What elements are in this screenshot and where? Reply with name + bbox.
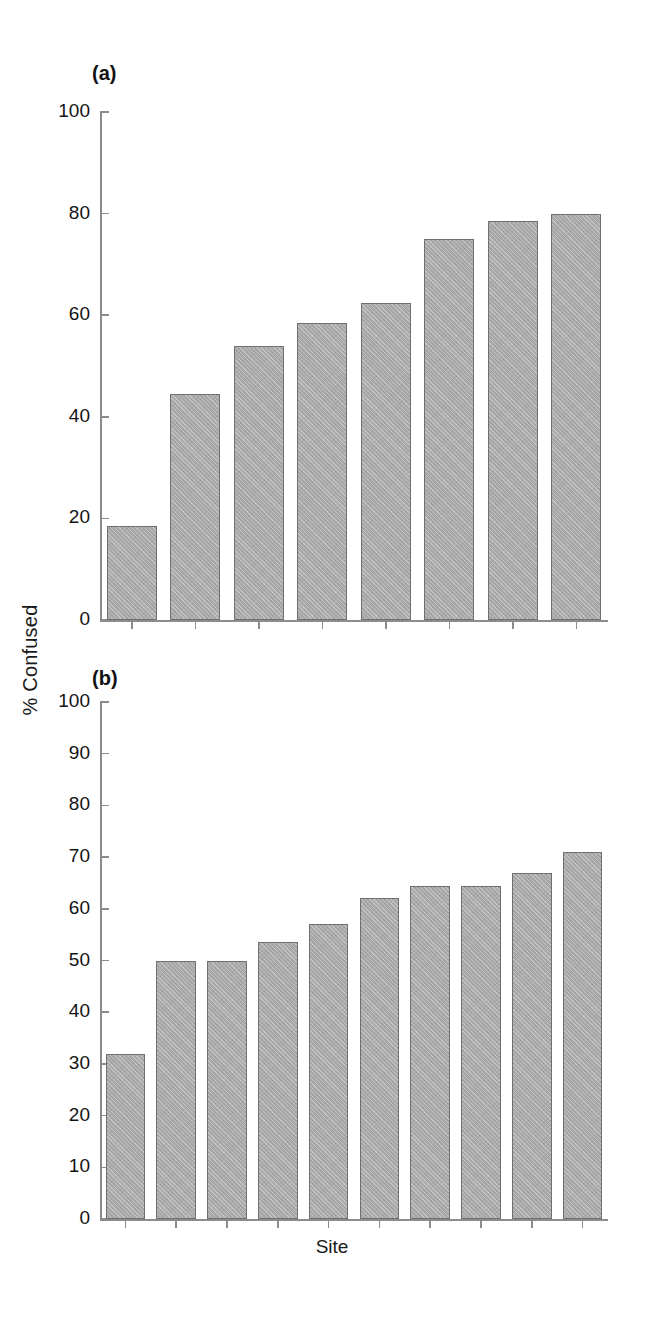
y-tick-label-b-40: 40	[30, 1000, 90, 1022]
y-tick-label-a-20: 20	[30, 506, 90, 528]
y-tick-label-b-80: 80	[30, 793, 90, 815]
y-tick-b-40	[100, 1011, 109, 1013]
x-tick-a-8	[576, 620, 578, 629]
x-tick-b-2	[175, 1219, 177, 1228]
x-tick-a-3	[258, 620, 260, 629]
x-tick-a-6	[449, 620, 451, 629]
y-tick-label-b-90: 90	[30, 742, 90, 764]
bar-a-5	[361, 303, 411, 621]
y-tick-label-a-80: 80	[30, 202, 90, 224]
panel-b: (b) 0102030405060708090100 Site	[0, 664, 664, 1328]
x-tick-b-4	[277, 1219, 279, 1228]
plot-area-b: 0102030405060708090100	[100, 702, 608, 1219]
panel-a-tag: (a)	[92, 62, 116, 85]
x-tick-b-10	[582, 1219, 584, 1228]
y-tick-label-a-0: 0	[30, 608, 90, 630]
bar-a-1	[107, 526, 157, 620]
bar-a-8	[551, 214, 601, 620]
y-tick-label-b-20: 20	[30, 1104, 90, 1126]
x-tick-a-7	[512, 620, 514, 629]
y-tick-b-90	[100, 753, 109, 755]
bar-b-9	[512, 873, 552, 1219]
y-tick-label-a-40: 40	[30, 405, 90, 427]
bar-b-10	[563, 852, 603, 1219]
x-axis-line-a	[100, 620, 608, 622]
bar-b-8	[461, 886, 501, 1219]
bar-a-3	[234, 346, 284, 620]
y-tick-b-50	[100, 960, 109, 962]
y-tick-label-a-100: 100	[30, 100, 90, 122]
y-tick-a-20	[100, 518, 109, 520]
y-tick-label-b-70: 70	[30, 845, 90, 867]
y-tick-label-b-0: 0	[30, 1207, 90, 1229]
panel-a: (a) 020406080100	[0, 0, 664, 664]
y-tick-label-b-10: 10	[30, 1155, 90, 1177]
y-tick-b-80	[100, 805, 109, 807]
y-tick-label-b-30: 30	[30, 1052, 90, 1074]
y-tick-label-a-60: 60	[30, 303, 90, 325]
bar-b-3	[207, 961, 247, 1220]
x-tick-a-5	[385, 620, 387, 629]
panel-b-tag: (b)	[92, 667, 118, 690]
y-tick-b-100	[100, 701, 109, 703]
bar-b-4	[258, 942, 298, 1219]
bar-a-6	[424, 239, 474, 620]
x-tick-b-9	[531, 1219, 533, 1228]
x-tick-b-5	[328, 1219, 330, 1228]
x-tick-b-8	[480, 1219, 482, 1228]
bar-b-5	[309, 924, 349, 1219]
bar-b-2	[156, 961, 196, 1220]
x-tick-a-4	[322, 620, 324, 629]
y-tick-label-b-100: 100	[30, 690, 90, 712]
x-axis-label: Site	[0, 1236, 664, 1258]
plot-area-a: 020406080100	[100, 112, 608, 620]
y-tick-a-60	[100, 314, 109, 316]
y-tick-b-60	[100, 908, 109, 910]
bar-a-4	[297, 323, 347, 620]
y-axis-line-a	[100, 112, 102, 620]
bar-b-7	[410, 886, 450, 1219]
x-tick-b-7	[429, 1219, 431, 1228]
y-tick-label-b-50: 50	[30, 949, 90, 971]
y-tick-a-40	[100, 416, 109, 418]
y-tick-a-100	[100, 111, 109, 113]
y-tick-label-b-60: 60	[30, 897, 90, 919]
bar-b-6	[360, 898, 400, 1219]
y-tick-b-70	[100, 856, 109, 858]
bar-a-7	[488, 221, 538, 620]
bar-b-1	[106, 1054, 146, 1219]
figure-bar-charts: % Confused (a) 020406080100 (b) 01020304…	[0, 0, 664, 1328]
bar-a-2	[170, 394, 220, 620]
x-tick-b-6	[379, 1219, 381, 1228]
y-tick-a-80	[100, 213, 109, 215]
x-tick-b-1	[125, 1219, 127, 1228]
x-tick-a-2	[195, 620, 197, 629]
x-tick-b-3	[226, 1219, 228, 1228]
x-tick-a-1	[131, 620, 133, 629]
